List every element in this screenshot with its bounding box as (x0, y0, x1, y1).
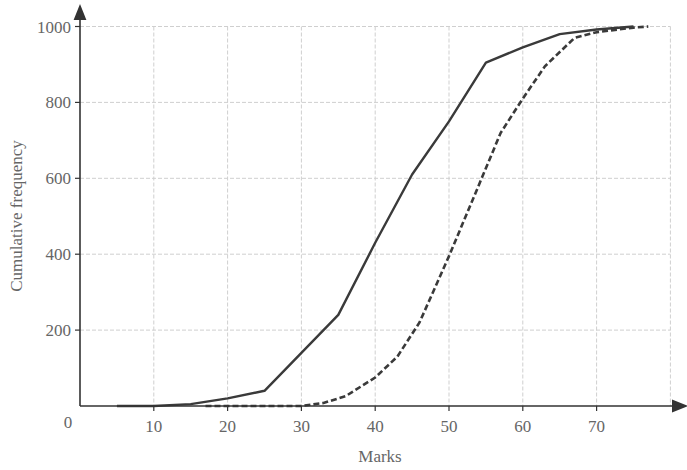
x-tick-label: 30 (293, 417, 310, 436)
grid-lines (80, 27, 670, 407)
x-tick-label: 70 (588, 417, 605, 436)
y-tick-label: 600 (46, 169, 72, 188)
y-axis-title: Cumulative frequency (7, 140, 26, 292)
x-tick-label: 20 (219, 417, 236, 436)
y-tick-label: 800 (46, 93, 72, 112)
cumulative-frequency-chart: 10203040506070 2004006008001000 0 Marks … (0, 0, 687, 470)
y-tick-label: 200 (46, 321, 72, 340)
x-tick-label: 60 (514, 417, 531, 436)
x-tick-label: 40 (367, 417, 384, 436)
x-axis-title: Marks (358, 447, 401, 466)
x-tick-label: 10 (145, 417, 162, 436)
data-series (117, 27, 648, 407)
y-tick-label: 400 (46, 245, 72, 264)
series-line-dashed (206, 27, 649, 407)
y-tick-labels: 2004006008001000 (37, 18, 80, 341)
origin-label: 0 (64, 413, 73, 432)
x-tick-labels: 10203040506070 (145, 406, 605, 436)
y-tick-label: 1000 (37, 18, 71, 37)
x-tick-label: 50 (441, 417, 458, 436)
